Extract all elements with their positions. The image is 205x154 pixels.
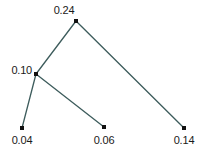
- node-value-label: 0.04: [12, 134, 33, 146]
- node-value-label: 0.06: [94, 134, 115, 146]
- graph-edge: [36, 21, 76, 74]
- graph-node[interactable]: [102, 125, 106, 129]
- node-value-label: 0.24: [54, 4, 75, 16]
- node-diagram: 0.240.100.040.060.14: [0, 0, 205, 154]
- graph-node[interactable]: [20, 126, 24, 130]
- graph-node[interactable]: [182, 126, 186, 130]
- edge-layer: [22, 21, 184, 128]
- node-value-label: 0.14: [174, 134, 195, 146]
- node-value-label: 0.10: [11, 64, 32, 76]
- node-layer: [20, 19, 186, 130]
- graph-node[interactable]: [74, 19, 78, 23]
- graph-node[interactable]: [34, 72, 38, 76]
- graph-edge: [36, 74, 104, 127]
- graph-edge: [22, 74, 36, 128]
- graph-edge: [76, 21, 184, 128]
- graph-canvas: [0, 0, 205, 154]
